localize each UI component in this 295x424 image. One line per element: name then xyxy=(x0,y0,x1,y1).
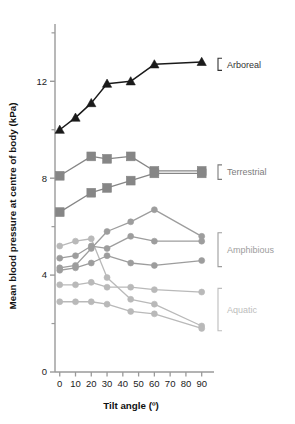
data-point-marker xyxy=(197,169,206,178)
data-point-marker xyxy=(88,236,94,242)
data-point-marker xyxy=(55,208,64,217)
blood-pressure-line-chart: 048120102030405060708090 ArborealTerrest… xyxy=(0,0,295,424)
data-point-marker xyxy=(128,219,134,225)
data-point-marker xyxy=(128,296,134,302)
data-point-marker xyxy=(104,228,110,234)
data-point-marker xyxy=(57,282,63,288)
x-tick-label: 10 xyxy=(70,378,81,389)
data-point-marker xyxy=(73,265,79,271)
group-label-text: Aquatic xyxy=(227,305,258,315)
x-tick-label: 20 xyxy=(86,378,97,389)
group-label-text: Amphibious xyxy=(227,245,275,255)
data-point-marker xyxy=(128,260,134,266)
data-point-marker xyxy=(57,255,63,261)
x-tick-label: 40 xyxy=(118,378,129,389)
data-point-marker xyxy=(103,183,112,192)
data-point-marker xyxy=(88,243,94,249)
y-tick-label: 4 xyxy=(42,269,47,280)
y-tick-label: 12 xyxy=(36,76,47,87)
data-point-marker xyxy=(73,299,79,305)
data-point-marker xyxy=(87,188,96,197)
data-point-marker xyxy=(126,176,135,185)
data-point-marker xyxy=(55,171,64,180)
data-point-marker xyxy=(88,299,94,305)
x-tick-label: 60 xyxy=(149,378,160,389)
data-point-marker xyxy=(199,258,205,264)
data-point-marker xyxy=(104,275,110,281)
data-point-marker xyxy=(128,308,134,314)
x-tick-label: 80 xyxy=(181,378,192,389)
data-point-marker xyxy=(199,238,205,244)
y-axis-title: Mean blood pressure at centre of body (k… xyxy=(7,103,18,310)
data-point-marker xyxy=(151,262,157,268)
x-tick-label: 30 xyxy=(102,378,113,389)
group-label-text: Arboreal xyxy=(227,60,261,70)
data-point-marker xyxy=(104,253,110,259)
data-point-marker xyxy=(73,238,79,244)
data-point-marker xyxy=(199,289,205,295)
data-point-marker xyxy=(88,279,94,285)
data-point-marker xyxy=(57,243,63,249)
data-point-marker xyxy=(88,260,94,266)
y-tick-label: 8 xyxy=(42,173,47,184)
data-point-marker xyxy=(126,152,135,161)
data-point-marker xyxy=(57,267,63,273)
data-point-marker xyxy=(151,207,157,213)
y-tick-label: 0 xyxy=(42,366,47,377)
data-point-marker xyxy=(151,287,157,293)
data-point-marker xyxy=(151,238,157,244)
x-tick-label: 70 xyxy=(165,378,176,389)
data-point-marker xyxy=(103,154,112,163)
x-axis-title: Tilt angle (º) xyxy=(103,400,159,411)
data-point-marker xyxy=(73,282,79,288)
data-point-marker xyxy=(73,253,79,259)
data-point-marker xyxy=(57,299,63,305)
data-point-marker xyxy=(104,301,110,307)
data-point-marker xyxy=(199,325,205,331)
data-point-marker xyxy=(104,245,110,251)
x-tick-label: 0 xyxy=(57,378,62,389)
data-point-marker xyxy=(151,311,157,317)
data-point-marker xyxy=(87,152,96,161)
data-point-marker xyxy=(128,233,134,239)
x-tick-label: 90 xyxy=(196,378,207,389)
data-point-marker xyxy=(150,169,159,178)
data-point-marker xyxy=(151,301,157,307)
chart-figure: 048120102030405060708090 ArborealTerrest… xyxy=(0,0,295,424)
data-point-marker xyxy=(104,284,110,290)
group-label-text: Terrestrial xyxy=(227,167,267,177)
data-point-marker xyxy=(128,284,134,290)
x-tick-label: 50 xyxy=(133,378,144,389)
